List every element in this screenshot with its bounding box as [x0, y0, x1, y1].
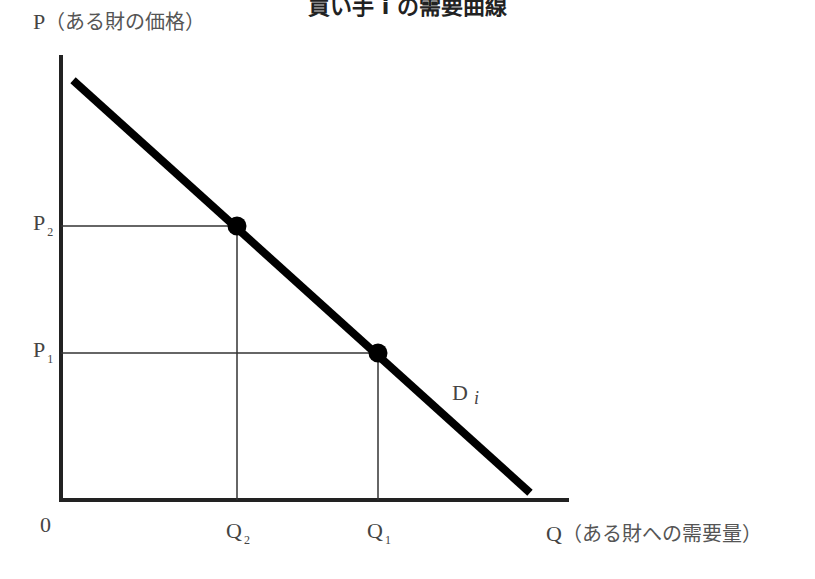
x-axis-label: Q（ある財への需要量） — [546, 518, 762, 547]
point-p2-q2 — [228, 217, 247, 236]
tick-label-p1: P1 — [33, 337, 53, 367]
curve-label: Di — [452, 380, 479, 409]
chart-canvas — [0, 0, 815, 579]
tick-label-q1: Q1 — [367, 518, 391, 548]
tick-label-q2: Q2 — [226, 518, 250, 548]
tick-label-p2: P2 — [33, 210, 53, 240]
demand-curve — [76, 83, 527, 490]
point-p1-q1 — [369, 344, 388, 363]
origin-label: 0 — [40, 512, 51, 538]
y-axis-label: P（ある財の価格） — [33, 6, 205, 35]
